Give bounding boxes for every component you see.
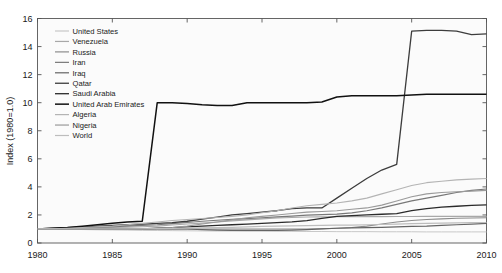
x-tick-label: 2000	[327, 250, 347, 260]
line-chart: 0246810121416 19801985199019952000200520…	[0, 0, 502, 273]
x-tick-label: 2010	[476, 250, 496, 260]
legend-label-iraq: Iraq	[73, 69, 86, 78]
chart-figure: 0246810121416 19801985199019952000200520…	[0, 0, 502, 273]
x-tick-label: 1985	[102, 250, 122, 260]
legend-label-united-arab-emirates: United Arab Emirates	[73, 100, 145, 109]
legend-label-nigeria: Nigeria	[73, 121, 98, 130]
y-axis-title: Index (1980=1.0)	[5, 97, 15, 165]
legend-label-russia: Russia	[73, 48, 97, 57]
y-tick-label: 0	[27, 238, 32, 248]
y-tick-label: 10	[22, 98, 32, 108]
x-tick-label: 2005	[402, 250, 422, 260]
x-tick-label: 1995	[252, 250, 272, 260]
legend-label-united-states: United States	[73, 27, 119, 36]
y-tick-label: 14	[22, 42, 32, 52]
legend-label-iran: Iran	[73, 58, 86, 67]
y-tick-label: 12	[22, 70, 32, 80]
legend-label-venezuela: Venezuela	[73, 37, 109, 46]
legend-label-world: World	[73, 131, 93, 140]
legend-label-saudi-arabia: Saudi Arabia	[73, 89, 117, 98]
y-tick-label: 8	[27, 126, 32, 136]
y-tick-label: 6	[27, 154, 32, 164]
x-tick-label: 1990	[177, 250, 197, 260]
x-tick-label: 1980	[27, 250, 47, 260]
legend-label-algeria: Algeria	[73, 110, 97, 119]
y-tick-label: 16	[22, 14, 32, 24]
legend-label-qatar: Qatar	[73, 79, 92, 88]
y-tick-label: 2	[27, 210, 32, 220]
y-tick-label: 4	[27, 182, 32, 192]
